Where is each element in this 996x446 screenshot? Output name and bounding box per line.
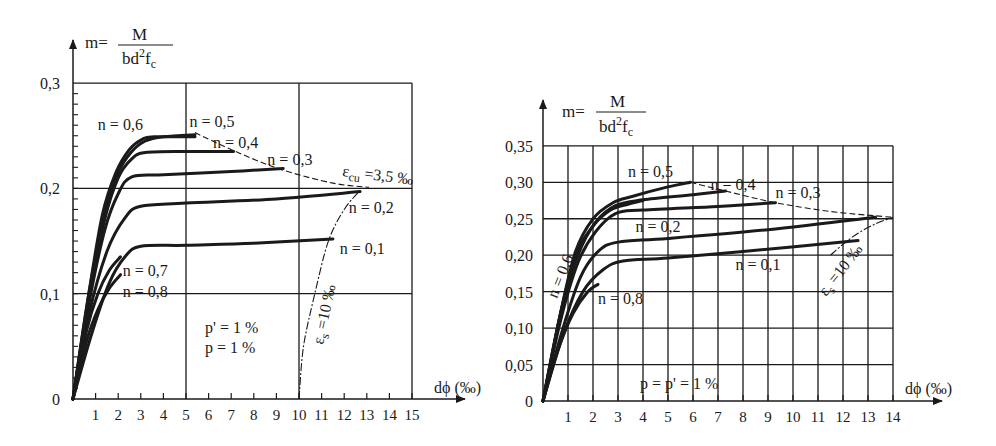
- left-ylabel-num: M: [132, 25, 147, 44]
- x-tick-label: 11: [314, 407, 328, 423]
- svg-text:εcu =3,5 ‰: εcu =3,5 ‰: [341, 162, 414, 192]
- x-tick-label: 6: [689, 409, 697, 425]
- x-tick-label: 2: [114, 407, 122, 423]
- right-xlabel: dϕ (‰): [905, 380, 952, 398]
- x-tick-label: 7: [714, 409, 722, 425]
- x-tick-label: 8: [250, 407, 258, 423]
- series-label: n = 0,4: [213, 134, 258, 151]
- left-ylabel: m= M bd2fc: [85, 25, 173, 71]
- left-ylabel-lhs: m=: [85, 33, 108, 52]
- y-tick-label: 0,20: [505, 247, 533, 264]
- x-tick-label: 7: [227, 407, 235, 423]
- y-tick-label: 0,25: [505, 211, 533, 228]
- y-tick-label: 0,35: [505, 138, 533, 155]
- right-ylabel: m= M bd2fc: [562, 92, 646, 139]
- x-tick-label: 8: [739, 409, 747, 425]
- series-label: n = 0,6: [98, 116, 143, 133]
- series-label: n = 0,1: [736, 256, 781, 273]
- right-ylabel-num: M: [610, 92, 625, 111]
- y-tick-label: 0,15: [505, 284, 533, 301]
- series-label: n = 0,3: [776, 184, 821, 201]
- y-tick-label: 0: [525, 393, 533, 410]
- series-label: n = 0,8: [598, 290, 643, 307]
- x-tick-label: 10: [292, 407, 307, 423]
- x-tick-label: 12: [337, 407, 352, 423]
- x-tick-label: 14: [382, 407, 398, 423]
- x-tick-label: 11: [811, 409, 825, 425]
- series-label: n = 0,7: [123, 262, 168, 279]
- svg-text:εs =10 ‰: εs =10 ‰: [309, 283, 342, 346]
- y-tick-label: 0,10: [505, 320, 533, 337]
- y-tick-label: 0,3: [40, 75, 60, 92]
- left-ecu-label: εcu =3,5 ‰: [341, 162, 414, 192]
- x-tick-label: 3: [614, 409, 622, 425]
- y-tick-label: 0,05: [505, 357, 533, 374]
- x-tick-label: 1: [92, 407, 100, 423]
- series-label: n = 0,4: [711, 176, 756, 193]
- x-tick-label: 12: [836, 409, 851, 425]
- left-annotation-line-2: p = 1 %: [205, 339, 255, 357]
- y-tick-label: 0,1: [40, 286, 60, 303]
- x-tick-label: 2: [589, 409, 597, 425]
- x-tick-label: 13: [861, 409, 876, 425]
- x-tick-label: 3: [137, 407, 145, 423]
- y-tick-label: 0: [52, 391, 60, 408]
- x-tick-label: 5: [182, 407, 190, 423]
- x-tick-label: 6: [205, 407, 213, 423]
- x-tick-label: 4: [639, 409, 647, 425]
- left-ylabel-den: bd2fc: [122, 46, 156, 71]
- series-line: [73, 239, 333, 399]
- x-tick-label: 4: [160, 407, 168, 423]
- series-label: n = 0,2: [636, 218, 681, 235]
- series-line: [73, 192, 360, 399]
- x-tick-label: 14: [886, 409, 902, 425]
- x-tick-label: 10: [786, 409, 801, 425]
- left-series-lines: [73, 135, 360, 399]
- series-label: n = 0,5: [189, 113, 234, 130]
- series-label: n = 0,1: [340, 240, 385, 257]
- y-tick-label: 0,2: [40, 180, 60, 197]
- right-annotation: p = p' = 1 %: [640, 375, 718, 393]
- series-label: n = 0,2: [349, 199, 394, 216]
- right-ylabel-den: bd2fc: [599, 114, 633, 139]
- series-label: n = 0,3: [267, 151, 312, 168]
- left-moment-curvature-chart: 12345678910111213141500,10,20,3 n = 0,6n…: [40, 25, 481, 423]
- left-annotation-line-1: p' = 1 %: [205, 319, 258, 337]
- series-label: n = 0,8: [123, 283, 168, 300]
- series-label: n = 0,5: [628, 163, 673, 180]
- right-ylabel-lhs: m=: [562, 102, 585, 121]
- x-tick-label: 5: [664, 409, 672, 425]
- right-moment-curvature-chart: 123456789101112131400,050,100,150,200,25…: [505, 92, 952, 425]
- y-tick-label: 0,30: [505, 174, 533, 191]
- x-tick-label: 9: [764, 409, 772, 425]
- left-annotation-box: p' = 1 % p = 1 %: [205, 319, 258, 357]
- left-xlabel: dϕ (‰): [434, 379, 481, 397]
- x-tick-label: 15: [405, 407, 420, 423]
- x-tick-label: 13: [359, 407, 374, 423]
- left-axes: [73, 40, 465, 399]
- x-tick-label: 9: [273, 407, 281, 423]
- left-es-label: εs =10 ‰: [309, 283, 342, 346]
- x-tick-label: 1: [564, 409, 572, 425]
- chart-canvas: 12345678910111213141500,10,20,3 n = 0,6n…: [0, 0, 996, 446]
